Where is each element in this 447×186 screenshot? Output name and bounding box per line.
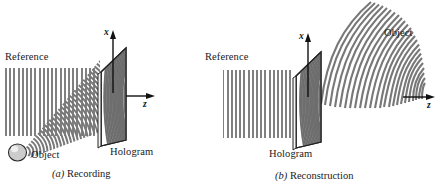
holography-figure: Reference Object Hologram x z (a) Record… (0, 0, 447, 186)
caption-a: (a) Recording (52, 168, 111, 179)
z-axis-label-a: z (143, 99, 147, 109)
panel-b-graphics (223, 0, 447, 186)
caption-b-tag: (b) (275, 170, 287, 181)
reference-label-a: Reference (5, 52, 48, 63)
caption-b: (b) Reconstruction (275, 170, 353, 181)
hologram-label-a: Hologram (110, 147, 153, 158)
object-label-a: Object (31, 150, 60, 161)
x-axis-label-b: x (299, 31, 304, 41)
caption-a-tag: (a) (52, 168, 64, 179)
caption-a-text: Recording (64, 168, 110, 179)
hologram-label-b: Hologram (269, 149, 312, 160)
sphere-object-icon (9, 144, 27, 161)
reference-label-b: Reference (205, 52, 248, 63)
panel-reconstruction: Reference Object Hologram x z (b) Recons… (223, 0, 447, 186)
object-label-b: Object (384, 28, 413, 39)
x-axis-label-a: x (104, 27, 109, 37)
reference-plane-wave-icon (223, 70, 290, 138)
z-axis-label-b: z (427, 100, 431, 110)
panel-recording: Reference Object Hologram x z (a) Record… (0, 0, 224, 186)
object-spherical-wave-icon (0, 0, 191, 186)
caption-b-text: Reconstruction (287, 170, 353, 181)
reconstructed-object-wave-icon (321, 2, 425, 108)
z-axis-arrow-icon (126, 93, 155, 99)
